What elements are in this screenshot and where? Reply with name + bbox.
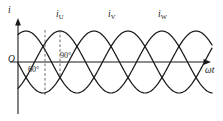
i-w-label: iW <box>158 10 167 20</box>
three-phase-waveform-figure: i ωt O iU iV iW 60° 90° <box>0 0 223 121</box>
axes-group <box>10 18 211 114</box>
angle-60-label: 60° <box>28 66 39 74</box>
i-u-label-subscript: U <box>59 13 64 20</box>
i-u-label: iU <box>56 10 63 20</box>
i-v-label-subscript: V <box>111 13 116 20</box>
i-w-label-subscript: W <box>161 13 167 20</box>
y-axis-label: i <box>8 6 11 16</box>
origin-label: O <box>8 55 15 65</box>
i-v-label: iV <box>108 10 115 20</box>
angle-90-label: 90° <box>60 52 71 60</box>
x-axis-label: ωt <box>205 66 214 76</box>
y-axis-arrowhead <box>15 18 21 26</box>
